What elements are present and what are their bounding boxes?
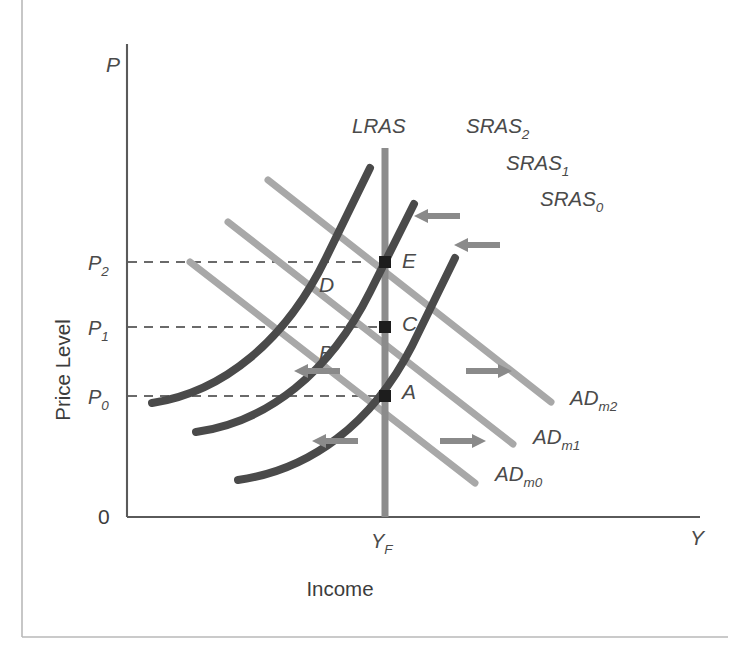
- point-label-b: B: [319, 341, 333, 364]
- y-tick-label-p2: P2: [88, 252, 109, 279]
- curve-label-sras1: SRAS1: [506, 151, 569, 179]
- point-label-a: A: [400, 380, 416, 403]
- arrow-sras-shift-upper: [414, 209, 460, 223]
- equilibrium-point-a: [379, 390, 391, 402]
- x-tick-label-yf: YF: [371, 530, 393, 557]
- sras-curve-sras2: [152, 168, 370, 403]
- sras-curve-sras0: [238, 258, 455, 480]
- ad-curves-group: [190, 180, 551, 483]
- arrow-sras-shift-lower: [454, 238, 500, 252]
- point-label-e: E: [402, 249, 417, 272]
- equilibrium-point-c: [379, 321, 391, 333]
- x-axis-symbol: Y: [690, 526, 706, 549]
- y-tick-label-p0: P0: [88, 386, 109, 413]
- x-axis-title: Income: [306, 577, 373, 600]
- point-labels-group: A B C D E: [319, 249, 418, 403]
- equilibrium-point-e: [379, 256, 391, 268]
- curve-label-sras2: SRAS2: [466, 114, 530, 142]
- figure-root: A B C D E LRAS SRAS2 SRAS1 SRAS0 ADm2 AD…: [0, 0, 741, 659]
- arrow-ad-shift-right-lower: [440, 434, 486, 448]
- curve-label-adm2: ADm2: [568, 386, 618, 414]
- curve-label-adm0: ADm0: [493, 462, 543, 490]
- y-axis-title: Price Level: [51, 319, 74, 420]
- curve-labels-group: LRAS SRAS2 SRAS1 SRAS0 ADm2 ADm1 ADm0: [352, 114, 618, 490]
- y-axis-symbol: P: [106, 53, 120, 76]
- curve-label-lras: LRAS: [352, 114, 406, 137]
- y-tick-label-p1: P1: [88, 317, 109, 344]
- curve-label-sras0: SRAS0: [540, 187, 604, 215]
- y-tick-labels-group: P2 P1 P0: [88, 252, 109, 413]
- asad-diagram: A B C D E LRAS SRAS2 SRAS1 SRAS0 ADm2 AD…: [0, 0, 741, 659]
- curve-label-adm1: ADm1: [531, 425, 580, 453]
- point-label-d: D: [319, 273, 334, 296]
- origin-label: 0: [98, 505, 110, 528]
- point-label-c: C: [402, 312, 418, 335]
